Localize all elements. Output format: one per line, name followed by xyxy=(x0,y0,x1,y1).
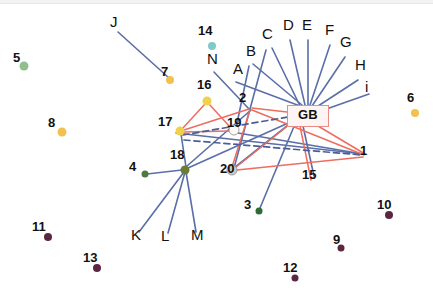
node-dot-17[interactable] xyxy=(176,127,185,136)
edge-18-M xyxy=(186,172,196,232)
node-gb-label: GB xyxy=(298,107,318,122)
edge-18-4 xyxy=(147,170,182,174)
node-dot-12[interactable] xyxy=(292,275,299,282)
edge-GB-H xyxy=(315,80,358,108)
edge-17-18 xyxy=(181,134,186,167)
node-dot-11[interactable] xyxy=(44,233,52,241)
edge-17-1 xyxy=(184,140,362,155)
node-dot-7[interactable] xyxy=(166,76,174,84)
node-dot-13[interactable] xyxy=(93,264,101,272)
node-dot-18[interactable] xyxy=(181,166,190,175)
network-edges-layer xyxy=(0,0,433,302)
network-diagram-canvas: GB 1345678910111213141516171819202 ABCDE… xyxy=(0,0,433,302)
node-dot-20[interactable] xyxy=(227,165,237,175)
node-dot-19[interactable] xyxy=(229,125,239,135)
edge-GB-F xyxy=(310,45,330,105)
edge-GB-D xyxy=(290,40,305,105)
edge-16-17 xyxy=(182,104,205,129)
edge-20-1 xyxy=(237,157,363,170)
node-dot-6[interactable] xyxy=(411,109,419,117)
edge-N-2 xyxy=(214,72,250,110)
node-dot-3[interactable] xyxy=(256,208,263,215)
node-dot-14[interactable] xyxy=(208,42,216,50)
node-dot-5[interactable] xyxy=(20,62,29,71)
edge-J-7 xyxy=(118,32,169,78)
node-dot-16[interactable] xyxy=(203,97,212,106)
node-dot-8[interactable] xyxy=(58,128,67,137)
node-dot-4[interactable] xyxy=(142,171,149,178)
node-dot-10[interactable] xyxy=(385,211,393,219)
node-dot-9[interactable] xyxy=(338,245,345,252)
node-gb-box[interactable]: GB xyxy=(287,105,329,127)
